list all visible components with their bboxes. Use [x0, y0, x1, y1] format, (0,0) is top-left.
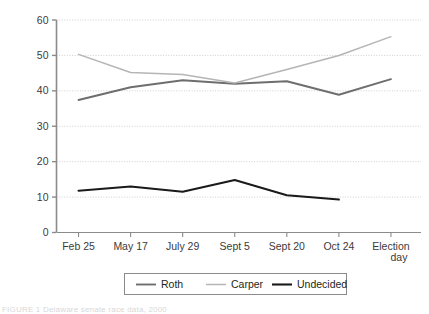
x-tick-label: day: [390, 251, 408, 263]
figure-caption: FIGURE 1 Delaware senate race data, 2000: [2, 305, 167, 314]
legend-entries: RothCarperUndecided: [136, 278, 347, 290]
y-tick-label: 40: [37, 84, 49, 96]
x-tick-label-group: Feb 25May 17July 29Sept 5Sept 20Oct 24El…: [62, 240, 410, 263]
legend-label-roth: Roth: [161, 278, 183, 290]
x-tick-label: July 29: [166, 240, 199, 252]
y-tick-label-group: 0102030405060: [37, 14, 49, 239]
legend-label-carper: Carper: [231, 278, 264, 290]
figure-container: 0102030405060 Feb 25May 17July 29Sept 5S…: [0, 0, 429, 314]
x-tick-group: [79, 233, 391, 238]
series-line-group: [79, 37, 391, 200]
y-tick-label: 50: [37, 49, 49, 61]
series-line-carper: [79, 37, 391, 83]
y-tick-label: 10: [37, 191, 49, 203]
x-tick-label: Oct 24: [323, 240, 354, 252]
y-tick-label: 0: [43, 226, 49, 238]
x-tick-label: Sept 20: [269, 240, 305, 252]
y-tick-label: 20: [37, 155, 49, 167]
series-line-undecided: [79, 180, 339, 199]
y-tick-label: 60: [37, 14, 49, 26]
y-tick-label: 30: [37, 120, 49, 132]
x-tick-label: May 17: [113, 240, 148, 252]
x-tick-label: Sept 5: [220, 240, 251, 252]
poll-trend-line-chart: 0102030405060 Feb 25May 17July 29Sept 5S…: [0, 0, 429, 314]
legend-label-undecided: Undecided: [297, 278, 347, 290]
gridline-group: [57, 20, 422, 197]
x-tick-label: Feb 25: [62, 240, 95, 252]
